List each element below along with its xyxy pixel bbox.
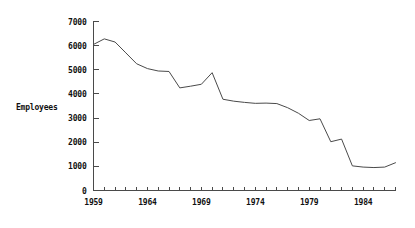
x-tick-label: 1974 [246, 198, 265, 207]
y-tick-label: 0 [82, 187, 87, 196]
chart-container: 01000200030004000500060007000 1959196419… [0, 0, 415, 228]
y-tick-label: 1000 [68, 162, 87, 171]
y-tick-label: 5000 [68, 66, 87, 75]
x-tick-label: 1959 [84, 198, 103, 207]
y-tick-label: 2000 [68, 138, 87, 147]
y-tick-label: 3000 [68, 114, 87, 123]
y-tick-label: 6000 [68, 42, 87, 51]
y-axis-title: Employees [16, 103, 58, 112]
x-axis: 195919641969197419791984 [84, 187, 395, 207]
y-tick-label: 7000 [68, 18, 87, 27]
series-line [94, 39, 396, 168]
y-axis-title-text: Employees [16, 103, 58, 112]
y-tick-label: 4000 [68, 90, 87, 99]
x-tick-label: 1984 [354, 198, 373, 207]
x-tick-label: 1969 [192, 198, 211, 207]
x-tick-label: 1979 [300, 198, 319, 207]
x-tick-label: 1964 [138, 198, 157, 207]
data-series-employees [94, 39, 396, 168]
employees-line-chart: 01000200030004000500060007000 1959196419… [0, 0, 415, 228]
